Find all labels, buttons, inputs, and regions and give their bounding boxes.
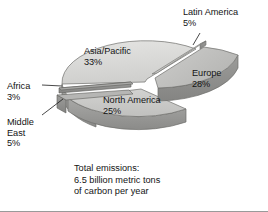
- slice-label-asia-pacific: Asia/Pacific 33%: [84, 46, 131, 67]
- slice-label-north-america: North America 25%: [103, 95, 161, 116]
- caption-line-3: of carbon per year: [74, 186, 160, 198]
- pie-chart-figure: Latin America 5% Asia/Pacific 33% Europe…: [0, 0, 268, 212]
- slice-label-europe: Europe 28%: [192, 68, 221, 89]
- chart-caption: Total emissions: 6.5 billion metric tons…: [74, 163, 160, 198]
- slice-label-asia-pacific-pct: 33%: [84, 57, 131, 68]
- slice-label-north-america-pct: 25%: [103, 106, 161, 117]
- caption-line-2: 6.5 billion metric tons: [74, 175, 160, 187]
- slice-label-middle-east-name: Middle: [7, 117, 34, 127]
- slice-label-europe-name: Europe: [192, 68, 221, 78]
- slice-label-africa-name: Africa: [7, 81, 30, 91]
- slice-label-africa: Africa 3%: [7, 81, 30, 102]
- leader-line-latin-america: [193, 33, 200, 45]
- slice-label-africa-pct: 3%: [7, 92, 30, 103]
- leader-line-africa: [42, 85, 62, 86]
- slice-label-middle-east-name2: East: [7, 128, 34, 139]
- slice-label-latin-america-name: Latin America: [183, 7, 238, 17]
- bottom-divider: [0, 211, 268, 212]
- slice-label-latin-america: Latin America 5%: [183, 7, 238, 28]
- slice-label-europe-pct: 28%: [192, 79, 221, 90]
- slice-label-latin-america-pct: 5%: [183, 18, 238, 29]
- slice-label-asia-pacific-name: Asia/Pacific: [84, 46, 131, 56]
- slice-label-middle-east-pct: 5%: [7, 138, 34, 149]
- slice-label-middle-east: Middle East 5%: [7, 117, 34, 149]
- slice-label-north-america-name: North America: [103, 95, 161, 105]
- caption-line-1: Total emissions:: [74, 163, 160, 175]
